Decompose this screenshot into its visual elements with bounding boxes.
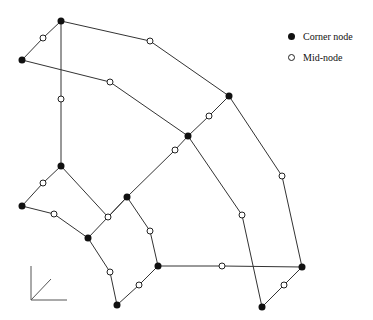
mid-node	[147, 38, 153, 44]
mid-node	[281, 282, 287, 288]
mid-node	[51, 211, 57, 217]
corner-node	[155, 263, 162, 270]
mesh-edge	[22, 60, 188, 136]
legend-label: Mid-node	[303, 52, 342, 63]
corner-node	[299, 264, 306, 271]
legend-item-corner-node: Corner node	[288, 26, 353, 47]
corner-node	[19, 203, 26, 210]
mid-node	[105, 214, 111, 220]
corner-node	[85, 235, 92, 242]
corner-node	[226, 93, 233, 100]
legend: Corner node Mid-node	[288, 26, 353, 68]
corner-node	[185, 133, 192, 140]
mesh-edge	[61, 21, 229, 96]
corner-node	[114, 302, 121, 309]
mid-node	[107, 79, 113, 85]
legend-item-mid-node: Mid-node	[288, 47, 353, 68]
mid-node	[206, 113, 212, 119]
mid-node	[107, 269, 113, 275]
mid-node	[58, 96, 64, 102]
mid-node	[172, 147, 178, 153]
corner-node	[124, 194, 131, 201]
corner-node	[58, 18, 65, 25]
corner-node	[58, 163, 65, 170]
mid-node	[40, 180, 46, 186]
corner-node	[19, 57, 26, 64]
mesh-edge	[61, 166, 127, 217]
mesh-edge	[188, 136, 262, 307]
mid-node	[219, 263, 225, 269]
mid-node	[136, 282, 142, 288]
axis-line	[31, 279, 51, 300]
open-circle-icon	[288, 54, 295, 61]
mesh-edges	[22, 21, 302, 307]
corner-node	[259, 304, 266, 311]
mesh-edge	[158, 266, 302, 267]
mesh-diagram: Corner node Mid-node	[0, 0, 373, 320]
coordinate-axes-icon	[31, 266, 67, 300]
mesh-edge	[127, 136, 188, 197]
legend-label: Corner node	[303, 31, 353, 42]
mid-node	[239, 212, 245, 218]
filled-circle-icon	[288, 33, 295, 40]
mesh-edge	[229, 96, 302, 267]
mid-node	[279, 173, 285, 179]
mid-node	[147, 228, 153, 234]
mid-node	[40, 35, 46, 41]
